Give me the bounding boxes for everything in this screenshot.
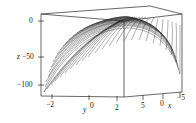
x-tick-label-0: 0: [160, 99, 164, 108]
x-tick-label-5: 5: [141, 101, 145, 110]
y-tick-label-minus2: −2: [46, 100, 54, 109]
x-axis-label: x: [168, 101, 171, 110]
surface-plot-figure: z 0 −50 −100 y −2 0 2 x 5 0 −5: [0, 0, 196, 123]
z-tick-label-0: 0: [29, 16, 33, 25]
z-tick-label-minus50: −50: [22, 52, 34, 61]
x-tick-label-minus5: −5: [177, 93, 185, 102]
z-axis-label: z: [17, 52, 20, 61]
z-tick-label-minus100: −100: [17, 80, 32, 89]
y-tick-label-2: 2: [115, 103, 119, 112]
wireframe-surface-mesh: [44, 17, 180, 92]
y-tick-label-0: 0: [90, 101, 94, 110]
y-axis-label: y: [83, 105, 86, 114]
